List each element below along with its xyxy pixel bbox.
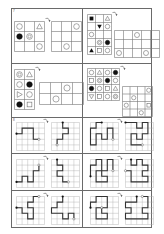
end-dot-icon xyxy=(141,195,143,197)
double-circle-icon xyxy=(27,34,33,40)
path-puzzle-2-source xyxy=(90,122,120,152)
puzzle-a-target-grid xyxy=(51,21,82,52)
circle-icon xyxy=(105,70,109,74)
double-circle-icon xyxy=(17,72,23,78)
end-dot-icon xyxy=(38,164,40,166)
rotate-arrow-icon xyxy=(117,118,123,124)
circle-icon xyxy=(105,48,109,52)
double-circle-icon xyxy=(113,94,117,98)
rotate-arrow-icon xyxy=(117,155,123,161)
path-puzzle-5-target xyxy=(51,196,81,226)
path-puzzle-6-target xyxy=(125,196,155,226)
circle-icon xyxy=(64,85,70,91)
end-dot-icon xyxy=(38,138,40,140)
triangle-icon xyxy=(27,72,33,77)
circle-icon xyxy=(64,44,70,50)
circle-icon xyxy=(53,96,59,102)
circle-icon xyxy=(89,70,93,74)
path-puzzle-3-target xyxy=(51,159,81,189)
circle-icon xyxy=(37,44,43,50)
triangle-icon xyxy=(113,86,117,90)
filled-circle-icon xyxy=(89,86,93,90)
circle-icon xyxy=(113,78,117,82)
filled-down-triangle-icon xyxy=(97,25,101,29)
circle-icon xyxy=(124,103,128,107)
filled-circle-icon xyxy=(113,70,117,74)
start-dot-icon xyxy=(130,158,132,160)
filled-square-icon xyxy=(90,17,94,21)
square-icon xyxy=(27,102,32,107)
path-puzzle-2-target xyxy=(125,122,155,152)
puzzle-b-target-grid xyxy=(114,30,160,58)
puzzle-a-source-grid xyxy=(14,21,45,52)
section-label-7: 7 xyxy=(13,9,15,13)
start-dot-icon xyxy=(136,195,138,197)
square-icon xyxy=(98,95,102,99)
circle-icon xyxy=(139,111,143,115)
path-puzzle-1-source xyxy=(16,122,46,152)
down-triangle-icon xyxy=(89,95,93,99)
puzzle-d-source-grid xyxy=(87,68,120,101)
start-dot-icon xyxy=(89,175,91,177)
start-dot-icon xyxy=(62,195,64,197)
square-icon xyxy=(90,79,94,83)
start-dot-icon xyxy=(15,181,17,183)
path-puzzle-3-source xyxy=(16,159,46,189)
circle-icon xyxy=(27,92,33,98)
triangle-icon xyxy=(97,70,101,74)
filled-circle-icon xyxy=(105,78,109,82)
puzzle-c-target-grid xyxy=(39,82,84,105)
end-dot-icon xyxy=(112,170,114,172)
double-circle-icon xyxy=(97,78,101,82)
circle-icon xyxy=(132,96,136,100)
circle-icon xyxy=(97,86,101,90)
circle-icon xyxy=(116,50,121,55)
end-dot-icon xyxy=(141,144,143,146)
circle-icon xyxy=(105,24,109,28)
puzzle-c-source-grid xyxy=(14,69,35,110)
path-puzzle-6-source xyxy=(90,196,120,226)
start-dot-icon xyxy=(89,207,91,209)
rotate-arrow-icon xyxy=(43,118,49,124)
filled-circle-icon xyxy=(27,82,33,88)
start-dot-icon xyxy=(15,133,17,135)
path-puzzle-5-source xyxy=(16,196,46,226)
divider-col xyxy=(82,8,83,228)
rotate-arrow-icon xyxy=(35,66,41,72)
start-dot-icon xyxy=(101,121,103,123)
circle-icon xyxy=(17,24,23,30)
end-dot-icon xyxy=(124,170,126,172)
circle-icon xyxy=(74,24,80,30)
section-label-8: 8 xyxy=(13,118,15,122)
end-dot-icon xyxy=(101,207,103,209)
circle-icon xyxy=(134,32,139,37)
filled-circle-icon xyxy=(17,102,23,108)
circle-icon xyxy=(105,94,109,98)
filled-triangle-icon xyxy=(89,48,93,52)
filled-circle-icon xyxy=(17,34,23,40)
end-dot-icon xyxy=(38,195,40,197)
triangle-icon xyxy=(37,24,43,29)
rotate-arrow-icon xyxy=(112,11,118,17)
path-puzzle-1-target xyxy=(51,122,81,152)
rotate-arrow-icon xyxy=(117,192,123,198)
puzzle-d-target-grid xyxy=(122,86,153,117)
square-icon xyxy=(106,87,110,91)
start-dot-icon xyxy=(124,121,126,123)
circle-icon xyxy=(147,88,151,92)
square-icon xyxy=(147,103,151,107)
end-dot-icon xyxy=(56,144,58,146)
end-dot-icon xyxy=(73,218,75,220)
path-puzzle-4-target xyxy=(125,159,155,189)
double-circle-icon xyxy=(97,40,101,44)
start-dot-icon xyxy=(62,121,64,123)
path-puzzle-4-source xyxy=(90,159,120,189)
circle-icon xyxy=(143,50,148,55)
circle-icon xyxy=(17,82,23,88)
start-dot-icon xyxy=(15,207,17,209)
rotate-arrow-icon xyxy=(43,155,49,161)
rotate-arrow-icon xyxy=(120,65,126,71)
filled-circle-icon xyxy=(105,40,109,44)
triangle-icon xyxy=(105,16,109,20)
end-dot-icon xyxy=(112,138,114,140)
